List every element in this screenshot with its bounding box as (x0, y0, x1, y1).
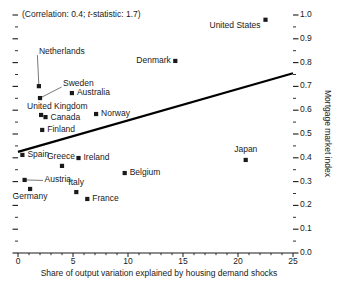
data-point-marker (23, 178, 27, 182)
mortgage-market-index-scatter-chart: (Correlation: 0.4; t-statistic: 1.7) Uni… (0, 0, 349, 288)
y-tick-label: 0.9 (300, 34, 312, 43)
x-tick-label: 25 (278, 257, 308, 266)
data-point-label: Norway (101, 109, 130, 118)
data-point-marker (20, 153, 24, 157)
data-point-marker (43, 115, 47, 119)
y-tick-label: 0.1 (300, 224, 312, 233)
data-point-label: Belgium (130, 168, 161, 177)
data-point-marker (123, 171, 127, 175)
data-point-label: Japan (234, 145, 257, 154)
data-point-marker (173, 59, 177, 63)
data-point-marker (40, 128, 44, 132)
plot-canvas (0, 0, 349, 288)
y-tick-label: 0.4 (300, 153, 312, 162)
x-tick-label: 5 (58, 257, 88, 266)
y-tick-label: 0.2 (300, 200, 312, 209)
x-axis-title: Share of output variation explained by h… (0, 268, 318, 278)
x-tick-label: 0 (3, 257, 33, 266)
data-point-marker (85, 197, 89, 201)
data-point-label: Austria (45, 175, 71, 184)
data-point-marker (60, 164, 64, 168)
data-point-label: Denmark (136, 56, 170, 65)
data-point-label: Australia (77, 88, 110, 97)
y-axis-ticks-right (293, 15, 299, 253)
data-point-marker (70, 91, 74, 95)
data-point-label: Finland (47, 125, 75, 134)
data-point-marker (39, 113, 43, 117)
data-point-marker (38, 96, 42, 100)
data-point-label: Greece (47, 152, 75, 161)
x-tick-label: 20 (223, 257, 253, 266)
data-point-label: Canada (51, 113, 81, 122)
label-leader-line (40, 87, 62, 98)
y-tick-label: 0.7 (300, 81, 312, 90)
data-point-label: Ireland (84, 153, 110, 162)
data-point-marker (263, 18, 267, 22)
y-tick-label: 0.0 (300, 248, 312, 257)
data-point-label: Netherlands (39, 47, 85, 56)
correlation-annotation: (Correlation: 0.4; t-statistic: 1.7) (22, 10, 141, 19)
x-tick-label: 15 (168, 257, 198, 266)
data-point-label: United States (210, 21, 261, 30)
y-tick-label: 0.8 (300, 58, 312, 67)
annotation-suffix: -statistic: 1.7) (90, 9, 141, 19)
label-leader-line (37, 55, 39, 86)
y-tick-label: 0.3 (300, 177, 312, 186)
y-axis-ticks-left (13, 15, 19, 253)
y-tick-label: 0.5 (300, 129, 312, 138)
data-point-marker (76, 156, 80, 160)
data-point-label: Italy (68, 178, 84, 187)
data-point-label: France (92, 194, 118, 203)
y-tick-label: 1.0 (300, 10, 312, 19)
data-point-marker (74, 190, 78, 194)
x-tick-label: 10 (113, 257, 143, 266)
annotation-prefix: (Correlation: 0.4; (22, 9, 88, 19)
label-leader-line (25, 180, 43, 181)
data-point-label: Spain (27, 150, 49, 159)
y-tick-label: 0.6 (300, 105, 312, 114)
data-point-marker (244, 158, 248, 162)
data-point-label: United Kingdom (27, 102, 87, 111)
data-point-label: Germany (13, 192, 48, 201)
data-point-marker (37, 84, 41, 88)
y-axis-title: Mortgage market index (323, 90, 333, 210)
data-point-marker (94, 112, 98, 116)
